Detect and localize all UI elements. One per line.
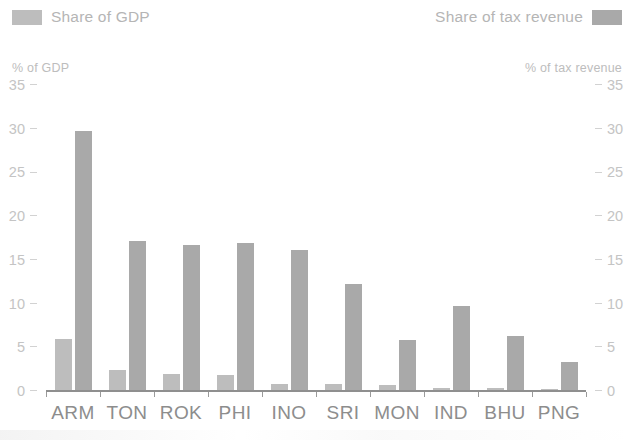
category-label-ton: TON [107, 402, 148, 424]
legend-swatch-share-of-tax-revenue [592, 10, 622, 25]
left-tick-label-20: 20 [9, 208, 25, 224]
bar-bhu-tax-revenue [507, 336, 524, 392]
left-tick-label-35: 35 [9, 77, 25, 93]
bar-ton-gdp [109, 370, 126, 392]
left-tick-10: 10 [9, 297, 37, 312]
bar-ino-tax-revenue [291, 250, 308, 392]
left-tick-15: 15 [9, 253, 37, 268]
right-tick-10: 10 [595, 297, 623, 312]
category-label-sri: SRI [327, 402, 360, 424]
bar-group-bhu [478, 86, 532, 392]
left-tick-0: 0 [17, 384, 37, 399]
right-tick-label-5: 5 [607, 339, 615, 355]
right-tick-20: 20 [595, 209, 623, 224]
bar-sri-tax-revenue [345, 284, 362, 392]
right-tick-label-20: 20 [607, 208, 623, 224]
right-tick-label-0: 0 [607, 383, 615, 399]
category-label-ino: INO [272, 402, 307, 424]
tick-dash-icon [595, 259, 602, 260]
x-tick-6 [370, 392, 371, 397]
tick-dash-icon [30, 215, 37, 216]
left-tick-label-0: 0 [17, 383, 25, 399]
bar-group-ino [262, 86, 316, 392]
legend-item-share-of-gdp: Share of GDP [12, 8, 150, 26]
category-label-ind: IND [434, 402, 468, 424]
x-tick-4 [262, 392, 263, 397]
tick-dash-icon [595, 346, 602, 347]
tick-dash-icon [595, 128, 602, 129]
x-tick-8 [478, 392, 479, 397]
bar-group-sri [316, 86, 370, 392]
x-tick-7 [424, 392, 425, 397]
right-tick-5: 5 [595, 340, 615, 355]
bar-phi-tax-revenue [237, 243, 254, 393]
x-tick-1 [100, 392, 101, 397]
x-tick-0 [46, 392, 47, 397]
right-tick-label-25: 25 [607, 164, 623, 180]
category-label-arm: ARM [51, 402, 94, 424]
bar-rok-tax-revenue [183, 245, 200, 392]
left-tick-label-15: 15 [9, 252, 25, 268]
right-tick-30: 30 [595, 122, 623, 137]
left-tick-20: 20 [9, 209, 37, 224]
category-label-bhu: BHU [484, 402, 525, 424]
category-label-rok: ROK [160, 402, 202, 424]
tick-dash-icon [30, 303, 37, 304]
tick-dash-icon [30, 84, 37, 85]
right-tick-label-30: 30 [607, 121, 623, 137]
right-tick-label-10: 10 [607, 296, 623, 312]
chart-container: Share of GDP Share of tax revenue % of G… [0, 0, 632, 444]
left-tick-25: 25 [9, 165, 37, 180]
tick-dash-icon [30, 128, 37, 129]
tick-dash-icon [30, 172, 37, 173]
category-label-mon: MON [374, 402, 420, 424]
bar-group-arm [46, 86, 100, 392]
bar-png-tax-revenue [561, 362, 578, 392]
x-tick-5 [316, 392, 317, 397]
bar-mon-tax-revenue [399, 340, 416, 392]
left-tick-5: 5 [17, 340, 37, 355]
category-label-png: PNG [538, 402, 580, 424]
left-tick-label-30: 30 [9, 121, 25, 137]
tick-dash-icon [595, 390, 602, 391]
left-tick-label-10: 10 [9, 296, 25, 312]
legend-item-share-of-tax-revenue: Share of tax revenue [435, 8, 622, 26]
left-tick-35: 35 [9, 78, 37, 93]
right-tick-25: 25 [595, 165, 623, 180]
tick-dash-icon [595, 84, 602, 85]
x-axis-line [46, 390, 586, 392]
legend-label-share-of-gdp: Share of GDP [51, 8, 150, 26]
x-tick-3 [208, 392, 209, 397]
tick-dash-icon [30, 346, 37, 347]
bar-group-mon [370, 86, 424, 392]
right-tick-label-15: 15 [607, 252, 623, 268]
left-tick-label-25: 25 [9, 164, 25, 180]
scan-artifact [0, 430, 632, 440]
right-tick-15: 15 [595, 253, 623, 268]
x-tick-end [586, 392, 587, 397]
x-tick-2 [154, 392, 155, 397]
left-tick-30: 30 [9, 122, 37, 137]
bar-group-phi [208, 86, 262, 392]
bar-arm-gdp [55, 339, 72, 392]
bar-ton-tax-revenue [129, 241, 146, 392]
bar-group-png [532, 86, 586, 392]
tick-dash-icon [595, 303, 602, 304]
legend-swatch-share-of-gdp [12, 10, 42, 25]
plot-area: 05101520253035 05101520253035 [46, 86, 586, 392]
bar-group-ton [100, 86, 154, 392]
right-axis-title: % of tax revenue [525, 61, 622, 75]
bar-group-ind [424, 86, 478, 392]
category-label-phi: PHI [219, 402, 252, 424]
left-axis-title: % of GDP [12, 61, 69, 75]
legend-label-share-of-tax-revenue: Share of tax revenue [435, 8, 583, 26]
tick-dash-icon [30, 390, 37, 391]
left-tick-label-5: 5 [17, 339, 25, 355]
bar-ind-tax-revenue [453, 306, 470, 392]
tick-dash-icon [30, 259, 37, 260]
tick-dash-icon [595, 172, 602, 173]
tick-dash-icon [595, 215, 602, 216]
bar-group-rok [154, 86, 208, 392]
bar-arm-tax-revenue [75, 131, 92, 392]
x-tick-9 [532, 392, 533, 397]
